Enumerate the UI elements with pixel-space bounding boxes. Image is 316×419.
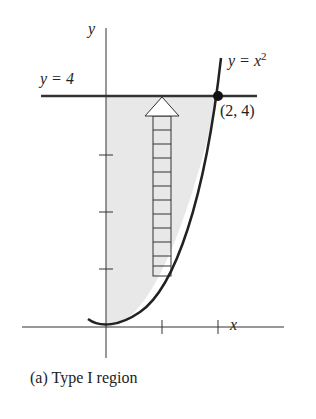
curve-label: y = x2 — [228, 50, 267, 70]
type-i-region-diagram — [0, 0, 316, 419]
caption: (a) Type I region — [30, 369, 137, 387]
point-label: (2, 4) — [220, 102, 255, 120]
intersection-point — [213, 91, 223, 101]
y-axis-label: y — [88, 20, 95, 38]
shaded-region-fix — [106, 96, 218, 327]
line-label: y = 4 — [40, 70, 74, 88]
x-axis-label: x — [230, 316, 237, 334]
